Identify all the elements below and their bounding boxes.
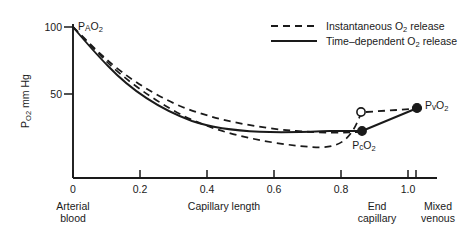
x-tick-label-0p8: 0.8 bbox=[334, 183, 349, 195]
x-tick-label-1p0: 1.0 bbox=[401, 183, 416, 195]
x-category-arterial-blood-line1: Arterial bbox=[56, 200, 89, 212]
annotation-pco2: PcO2 bbox=[352, 139, 375, 152]
annotation-pco2-c: c bbox=[359, 143, 363, 152]
y-tick-label-100: 100 bbox=[36, 21, 62, 33]
y-axis-title: PO2 mm Hg bbox=[19, 74, 31, 128]
annotation-pao2: PAO2 bbox=[78, 20, 103, 33]
legend-item-time-dependent: Time–dependent O2 release bbox=[326, 35, 457, 48]
y-axis-title-sub-num: 2 bbox=[24, 111, 33, 115]
x-axis-ticks bbox=[73, 170, 416, 178]
y-axis-title-base: P bbox=[19, 121, 31, 128]
x-category-mixed-venous-line1: Mixed bbox=[421, 200, 455, 212]
marker-mixed-venous bbox=[413, 104, 422, 113]
x-category-arterial-blood-line2: blood bbox=[56, 212, 89, 224]
curve-instantaneous bbox=[73, 27, 358, 133]
x-category-end-capillary-line2: capillary bbox=[358, 212, 397, 224]
curve-instantaneous-tail bbox=[366, 109, 412, 112]
annotation-pco2-sub: 2 bbox=[372, 144, 376, 153]
marker-end-capillary-time-dependent bbox=[358, 127, 367, 136]
legend-item-instantaneous: Instantaneous O2 release bbox=[326, 20, 445, 33]
marker-end-capillary-instantaneous bbox=[357, 108, 365, 116]
x-category-end-capillary-line1: End bbox=[358, 200, 397, 212]
series-line-instantaneous-curve bbox=[73, 27, 361, 137]
x-category-mixed-venous-line2: venous bbox=[421, 212, 455, 224]
x-category-arterial-blood: Arterial blood bbox=[56, 200, 89, 225]
x-category-end-capillary: End capillary bbox=[358, 200, 397, 225]
x-tick-label-0p2: 0.2 bbox=[133, 183, 148, 195]
x-tick-label-0p6: 0.6 bbox=[267, 183, 282, 195]
y-axis-title-unit: mm Hg bbox=[19, 74, 31, 111]
x-axis-title: Capillary length bbox=[188, 200, 260, 212]
x-tick-label-0p4: 0.4 bbox=[200, 183, 215, 195]
y-tick-label-50: 50 bbox=[36, 88, 62, 100]
legend-item-instantaneous-pre: Instantaneous O bbox=[326, 20, 403, 32]
series-line-time-dependent bbox=[73, 27, 362, 139]
annotation-pao2-a: A bbox=[85, 24, 90, 33]
series-line-instantaneous bbox=[73, 27, 361, 147]
chart-figure: PO2 mm Hg 100 50 0 0.2 0.4 0.6 0.8 1.0 A… bbox=[0, 0, 474, 237]
annotation-pco2-p: P bbox=[352, 139, 359, 151]
legend-item-time-dependent-sub: 2 bbox=[416, 40, 420, 49]
annotation-pvo2: PvO2 bbox=[425, 99, 448, 112]
annotation-pao2-sub: 2 bbox=[99, 25, 103, 34]
legend-item-time-dependent-pre: Time–dependent O bbox=[326, 35, 416, 47]
annotation-pao2-p: P bbox=[78, 20, 85, 32]
legend-item-instantaneous-post: release bbox=[407, 20, 444, 32]
legend-item-time-dependent-post: release bbox=[420, 35, 457, 47]
annotation-pao2-o: O bbox=[90, 20, 98, 32]
x-tick-label-0: 0 bbox=[70, 183, 76, 195]
curve-time-dependent bbox=[73, 27, 362, 132]
y-axis-ticks bbox=[64, 27, 73, 94]
y-axis-title-sub-o: O bbox=[24, 115, 33, 121]
annotation-pvo2-v: v bbox=[432, 103, 436, 112]
legend-item-instantaneous-sub: 2 bbox=[403, 25, 407, 34]
annotation-pvo2-sub: 2 bbox=[444, 104, 448, 113]
x-category-mixed-venous: Mixed venous bbox=[421, 200, 455, 225]
annotation-pvo2-p: P bbox=[425, 99, 432, 111]
